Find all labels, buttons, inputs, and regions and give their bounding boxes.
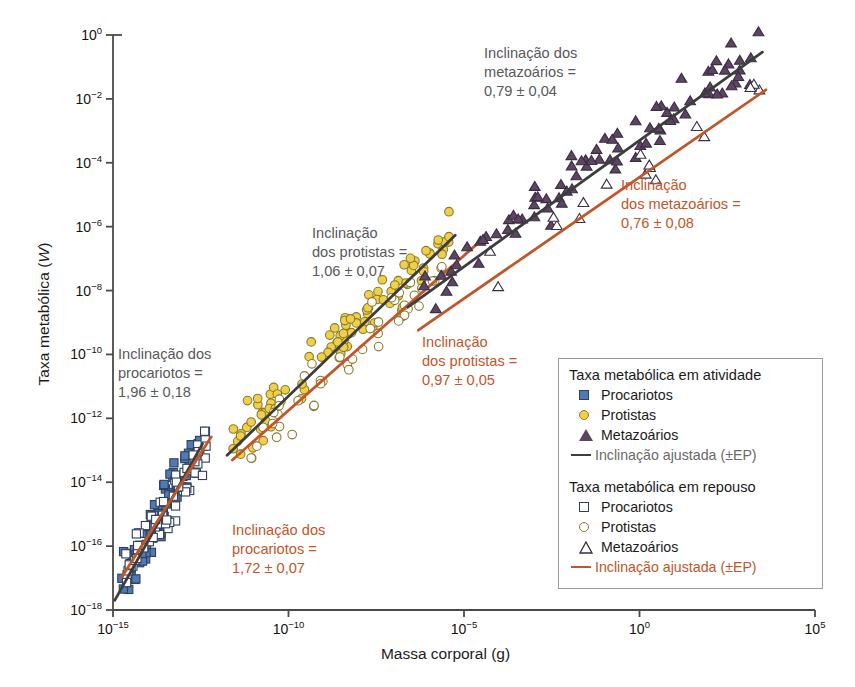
data-point-circle (247, 454, 256, 463)
y-tick-label: 10−16 (30, 536, 102, 554)
legend-item-active-protists[interactable]: Protistas (579, 405, 822, 425)
legend-item-rest-prokaryotes[interactable]: Procariotos (579, 497, 822, 517)
data-point-circle (247, 418, 256, 427)
legend-label: Metazoários (601, 427, 678, 443)
y-tick-label: 100 (30, 25, 102, 43)
data-point-square (181, 452, 189, 460)
fitted-regression-line (115, 444, 203, 601)
figure-root: Taxa metabólica (W) Massa corporal (g) 1… (0, 0, 855, 687)
data-point-triangle (753, 27, 764, 36)
data-point-circle (308, 360, 317, 369)
data-point-circle (310, 401, 319, 410)
data-point-triangle (566, 161, 577, 170)
data-point-triangle (571, 171, 582, 180)
data-point-circle (346, 315, 355, 324)
annotation-prokaryotes-active: Inclinação dos procariotos = 1,96 ± 0,18 (118, 345, 211, 402)
data-point-triangle (529, 181, 540, 190)
data-point-square (171, 502, 179, 510)
legend-label: Metazoários (601, 539, 678, 555)
x-axis-title-text: Massa corporal (g) (381, 645, 510, 662)
x-axis-title: Massa corporal (g) (0, 645, 855, 663)
data-point-triangle (669, 102, 680, 111)
y-tick-label: 10−4 (30, 153, 102, 171)
data-point-circle (406, 254, 415, 263)
fitted-regression-line (122, 437, 212, 577)
data-point-circle (330, 324, 339, 333)
data-point-circle (345, 365, 354, 374)
annotation-protists-active: Inclinação dos protistas = 1,06 ± 0,07 (312, 224, 407, 281)
data-point-square (132, 530, 140, 538)
data-point-square (170, 459, 178, 467)
data-point-triangle (691, 122, 702, 131)
y-tick-label: 10−10 (30, 344, 102, 362)
legend-group-active-title: Taxa metabólica em atividade (569, 367, 822, 383)
line-swatch-icon (571, 566, 595, 568)
data-point-circle (445, 207, 454, 216)
legend-item-active-metazoans[interactable]: Metazoários (579, 425, 822, 445)
data-point-circle (307, 338, 316, 347)
annotation-protists-rest: Inclinação dos protistas = 0,97 ± 0,05 (422, 333, 517, 390)
data-point-circle (422, 246, 431, 255)
data-point-circle (288, 430, 297, 439)
annotation-prokaryotes-rest: Inclinação dos procariotos = 1,72 ± 0,07 (232, 521, 325, 578)
legend-box: Taxa metabólica em atividade Procariotos… (558, 358, 823, 589)
filled-square-icon (579, 390, 601, 400)
data-point-triangle (462, 242, 473, 251)
filled-circle-icon (579, 410, 601, 420)
data-point-circle (272, 433, 281, 442)
data-point-square (201, 427, 209, 435)
data-point-circle (366, 324, 375, 333)
data-point-circle (253, 394, 262, 403)
data-point-triangle (449, 250, 460, 259)
y-tick-label: 10−12 (30, 408, 102, 426)
legend-item-rest-metazoans[interactable]: Metazoários (579, 537, 822, 557)
data-point-circle (368, 298, 377, 307)
data-point-triangle (655, 136, 666, 145)
legend-label: Procariotos (601, 387, 673, 403)
data-point-square (160, 480, 168, 488)
legend-label: Protistas (601, 407, 656, 423)
open-circle-icon (579, 522, 601, 532)
legend-item-active-prokaryotes[interactable]: Procariotos (579, 385, 822, 405)
y-axis-title-unit: W (35, 248, 52, 263)
data-point-triangle (441, 286, 452, 295)
legend-label: Inclinação ajustada (±EP) (595, 447, 757, 463)
legend-label: Inclinação ajustada (±EP) (595, 559, 757, 575)
data-point-circle (434, 236, 443, 245)
legend-group-rest-title: Taxa metabólica em repouso (569, 479, 822, 495)
annotation-metazoans-rest: Inclinação dos metazoários = 0,76 ± 0,08 (621, 176, 741, 233)
x-tick-label: 100 (600, 619, 680, 637)
y-tick-label: 10−18 (30, 600, 102, 618)
data-point-triangle (726, 38, 737, 47)
data-point-triangle (548, 212, 559, 221)
data-point-triangle (676, 73, 687, 82)
filled-triangle-icon (579, 429, 601, 441)
data-point-triangle (491, 229, 502, 238)
data-point-circle (374, 287, 383, 296)
data-point-square (163, 516, 171, 524)
legend-item-active-fit[interactable]: Inclinação ajustada (±EP) (571, 445, 822, 465)
data-point-circle (390, 281, 399, 290)
data-point-circle (438, 263, 447, 272)
data-point-triangle (734, 55, 745, 64)
data-point-triangle (711, 56, 722, 65)
data-point-triangle (493, 282, 504, 291)
data-point-triangle (613, 143, 624, 152)
line-swatch-icon (571, 454, 595, 456)
open-triangle-icon (579, 541, 601, 554)
x-tick-label: 10−10 (249, 619, 329, 637)
annotation-metazoans-active: Inclinação dos metazoários = 0,79 ± 0,04 (484, 44, 577, 101)
data-point-triangle (541, 194, 552, 203)
y-tick-label: 10−2 (30, 89, 102, 107)
legend-label: Procariotos (601, 499, 673, 515)
data-point-triangle (630, 116, 641, 125)
legend-item-rest-protists[interactable]: Protistas (579, 517, 822, 537)
y-tick-label: 10−14 (30, 472, 102, 490)
data-point-triangle (430, 304, 441, 313)
x-tick-label: 10−15 (73, 619, 153, 637)
legend-item-rest-fit[interactable]: Inclinação ajustada (±EP) (571, 557, 822, 577)
x-tick-label: 10−5 (424, 619, 504, 637)
legend-label: Protistas (601, 519, 656, 535)
data-point-square (132, 575, 140, 583)
data-point-circle (243, 396, 252, 405)
